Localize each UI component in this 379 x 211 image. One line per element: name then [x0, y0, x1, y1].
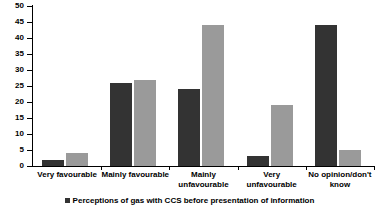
legend-swatch-series-1 [65, 198, 70, 203]
bar [271, 105, 293, 166]
x-axis-separator [374, 166, 375, 170]
category-label: Mainly unfavourable [169, 170, 237, 189]
y-axis-tick [27, 102, 32, 103]
y-axis-tick-label: 50 [0, 2, 24, 10]
plot-area [33, 6, 374, 166]
y-axis-tick-label: 25 [0, 82, 24, 90]
bar-group [101, 6, 169, 166]
x-axis-line [32, 166, 375, 167]
y-axis-tick [27, 38, 32, 39]
bar [247, 156, 269, 166]
bar-group [33, 6, 101, 166]
category-label: Mainly favourable [101, 170, 169, 180]
y-axis-tick-label: 35 [0, 50, 24, 58]
bar [315, 25, 337, 166]
y-axis-tick [27, 166, 32, 167]
bar-chart: 05101520253035404550 Very favourableMain… [0, 0, 379, 211]
bar [110, 83, 132, 166]
y-axis-tick-label: 10 [0, 130, 24, 138]
y-axis-tick [27, 134, 32, 135]
y-axis-tick [27, 150, 32, 151]
bar-group [169, 6, 237, 166]
bar-group [238, 6, 306, 166]
legend-label-series-1: Perceptions of gas with CCS before prese… [73, 196, 315, 205]
bar [134, 80, 156, 166]
y-axis-tick-label: 30 [0, 66, 24, 74]
y-axis-tick [27, 54, 32, 55]
category-label: Very favourable [33, 170, 101, 180]
chart-legend: Perceptions of gas with CCS before prese… [0, 196, 379, 205]
y-axis-tick [27, 118, 32, 119]
bar [339, 150, 361, 166]
bar [66, 153, 88, 166]
category-label: No opinion/don't know [306, 170, 374, 189]
bar [178, 89, 200, 166]
y-axis-tick [27, 70, 32, 71]
y-axis-tick-label: 20 [0, 98, 24, 106]
y-axis-tick-label: 0 [0, 162, 24, 170]
y-axis-tick-label: 40 [0, 34, 24, 42]
y-axis-tick [27, 86, 32, 87]
bar [42, 160, 64, 166]
y-axis-tick [27, 6, 32, 7]
y-axis-tick-label: 5 [0, 146, 24, 154]
y-axis-tick-label: 45 [0, 18, 24, 26]
bar [202, 25, 224, 166]
y-axis-tick [27, 22, 32, 23]
bar-group [306, 6, 374, 166]
y-axis-tick-label: 15 [0, 114, 24, 122]
category-label: Very unfavourable [238, 170, 306, 189]
